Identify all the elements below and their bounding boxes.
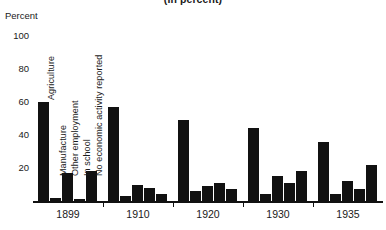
bar-group-1930	[248, 28, 307, 201]
bar	[132, 185, 143, 202]
y-tick-80: 80	[3, 64, 29, 74]
group-separator-tick	[103, 203, 104, 207]
group-separator-tick	[243, 203, 244, 207]
bar	[226, 189, 237, 201]
y-axis-line	[33, 28, 34, 203]
bar	[202, 186, 213, 201]
bar	[354, 189, 365, 201]
bar	[318, 142, 329, 201]
y-tick-20: 20	[3, 163, 29, 173]
bar-group-1910	[108, 28, 167, 201]
series-label-in-school: In school	[83, 139, 92, 176]
bar-group-1920	[178, 28, 237, 201]
bar	[38, 102, 49, 201]
bar	[62, 173, 73, 201]
bar-chart: (In percent) Percent 10080604020 Agricul…	[0, 0, 386, 230]
y-axis-title: Percent	[5, 10, 38, 21]
x-axis-line	[33, 201, 383, 203]
group-separator-tick	[173, 203, 174, 207]
bar	[330, 194, 341, 201]
bar	[296, 171, 307, 201]
bar	[214, 183, 225, 201]
group-separator-tick	[313, 203, 314, 207]
x-tick-1910: 1910	[103, 208, 173, 220]
series-label-manufacture: Manufacture	[59, 125, 68, 176]
bar	[144, 188, 155, 201]
x-tick-1935: 1935	[313, 208, 383, 220]
bar	[260, 194, 271, 201]
x-tick-1920: 1920	[173, 208, 243, 220]
plot-area: AgricultureManufactureOther employmentIn…	[33, 28, 383, 203]
bar	[108, 107, 119, 201]
bar	[190, 191, 201, 201]
chart-title: (In percent)	[0, 0, 386, 5]
y-tick-100: 100	[3, 31, 29, 41]
series-label-no-economic-activity-reported: No economic activity reported	[95, 55, 104, 176]
bar-group-1935	[318, 28, 377, 201]
bar	[342, 181, 353, 201]
y-tick-60: 60	[3, 97, 29, 107]
x-tick-1899: 1899	[33, 208, 103, 220]
bar	[156, 194, 167, 201]
x-tick-1930: 1930	[243, 208, 313, 220]
series-label-other-employment: Other employment	[71, 100, 80, 176]
bar	[366, 165, 377, 201]
y-tick-40: 40	[3, 130, 29, 140]
bar	[272, 176, 283, 201]
series-label-agriculture: Agriculture	[47, 56, 56, 100]
bar	[178, 120, 189, 201]
bar	[284, 183, 295, 201]
bar	[248, 128, 259, 201]
